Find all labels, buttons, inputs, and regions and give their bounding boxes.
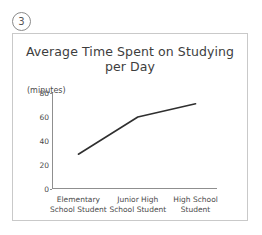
y-tick-label-0: 0 xyxy=(44,185,49,194)
y-tick-label-20: 20 xyxy=(39,161,49,170)
data-series-line xyxy=(52,93,217,189)
y-tick-mark-0 xyxy=(50,189,52,190)
x-tick-label-elementary: Elementary School Student xyxy=(50,195,107,214)
y-tick-label-40: 40 xyxy=(39,137,49,146)
x-tick-label-elementary-line-1: Elementary xyxy=(50,195,107,205)
x-tick-label-junior-high: Junior High School Student xyxy=(109,195,166,214)
x-tick-label-junior-high-line-1: Junior High xyxy=(109,195,166,205)
x-tick-label-high-school: High School Student xyxy=(173,195,218,214)
x-tick-label-high-school-line-1: High School xyxy=(173,195,218,205)
figure-number-badge: 3 xyxy=(12,12,31,31)
chart-title: Average Time Spent on Studying per Day xyxy=(13,44,247,74)
chart-title-line-1: Average Time Spent on Studying xyxy=(26,44,234,59)
chart-panel: Average Time Spent on Studying per Day (… xyxy=(12,33,248,221)
y-tick-label-60: 60 xyxy=(39,113,49,122)
y-tick-label-80: 80 xyxy=(39,89,49,98)
x-tick-label-elementary-line-2: School Student xyxy=(50,205,107,215)
plot-area: 80 60 40 20 0 Elementary School Student … xyxy=(52,93,217,189)
chart-title-line-2: per Day xyxy=(13,59,247,74)
x-tick-label-high-school-line-2: Student xyxy=(173,205,218,215)
x-tick-label-junior-high-line-2: School Student xyxy=(109,205,166,215)
